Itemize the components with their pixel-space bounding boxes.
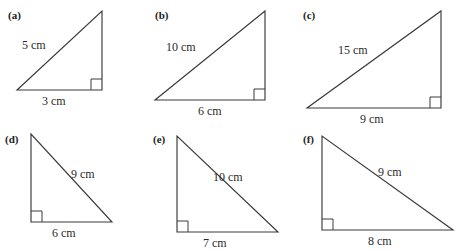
hypotenuse-label-f: 9 cm <box>378 166 402 178</box>
base-label-e: 7 cm <box>203 237 227 249</box>
triangle-shape-f <box>300 125 461 251</box>
base-label-c: 9 cm <box>360 113 384 125</box>
base-label-d: 6 cm <box>52 227 76 239</box>
hypotenuse-label-a: 5 cm <box>22 39 46 51</box>
figure-panel-c: (c) 15 cm 9 cm <box>300 0 461 125</box>
triangle-shape-e <box>150 125 300 251</box>
figure-panel-e: (e) 10 cm 7 cm <box>150 125 300 251</box>
figure-panel-b: (b) 10 cm 6 cm <box>150 0 300 125</box>
figure-panel-f: (f) 9 cm 8 cm <box>300 125 461 251</box>
triangle-shape-c <box>300 0 461 125</box>
base-label-a: 3 cm <box>42 95 66 107</box>
figure-panel-a: (a) 5 cm 3 cm <box>0 0 150 125</box>
hypotenuse-label-e: 10 cm <box>213 171 243 183</box>
triangle-shape-a <box>0 0 150 125</box>
base-label-b: 6 cm <box>198 105 222 117</box>
hypotenuse-label-b: 10 cm <box>166 41 196 53</box>
figure-sheet: (a) 5 cm 3 cm (b) 10 cm 6 cm (c) 15 cm 9… <box>0 0 461 251</box>
triangle-shape-b <box>150 0 300 125</box>
hypotenuse-label-d: 9 cm <box>71 168 95 180</box>
hypotenuse-label-c: 15 cm <box>338 44 368 56</box>
base-label-f: 8 cm <box>368 235 392 247</box>
figure-panel-d: (d) 9 cm 6 cm <box>0 125 150 251</box>
